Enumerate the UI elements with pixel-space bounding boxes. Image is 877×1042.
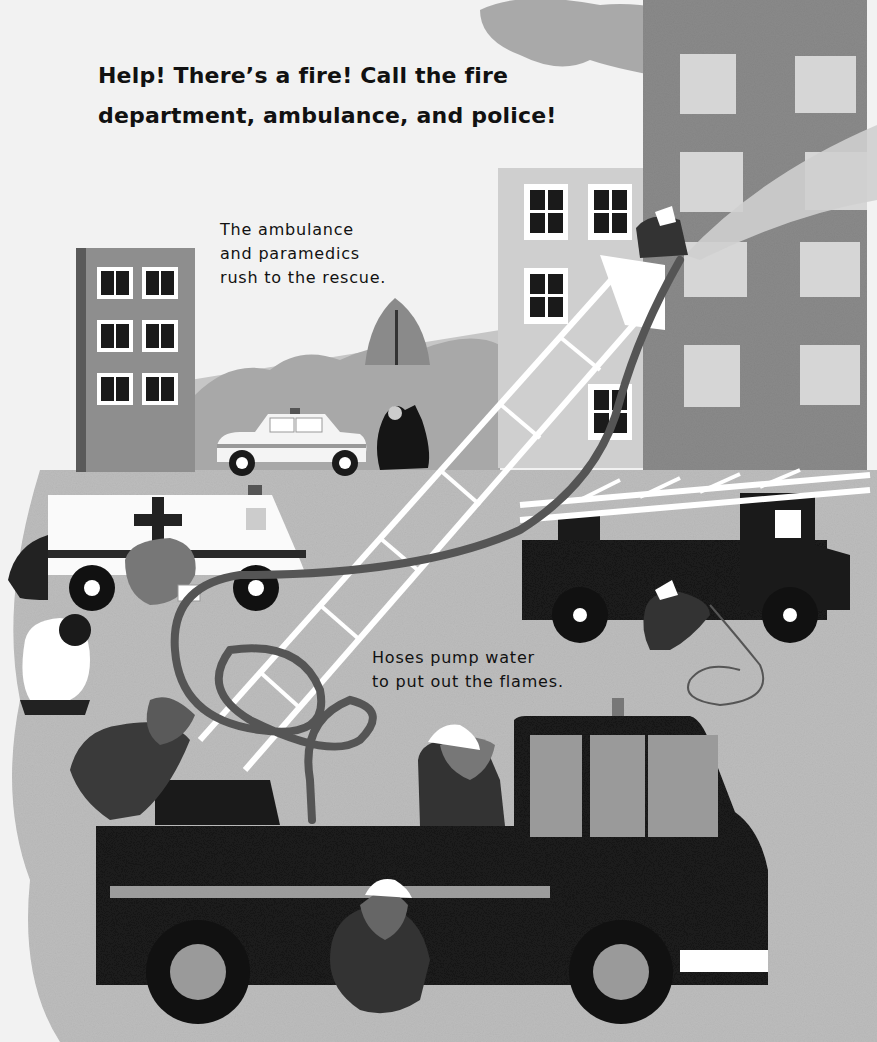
ambulance-caption: The ambulance and paramedics rush to the… bbox=[220, 218, 420, 290]
ambulance-caption-line-3: rush to the rescue. bbox=[220, 266, 420, 290]
hoses-caption: Hoses pump water to put out the flames. bbox=[372, 646, 602, 694]
headline-line-1: Help! There’s a fire! Call the fire bbox=[98, 56, 618, 96]
ambulance-caption-line-1: The ambulance bbox=[220, 218, 420, 242]
page-headline: Help! There’s a fire! Call the fire depa… bbox=[98, 56, 618, 136]
headline-line-2: department, ambulance, and police! bbox=[98, 96, 618, 136]
illustration-scene bbox=[0, 0, 877, 1042]
hoses-caption-line-1: Hoses pump water bbox=[372, 646, 602, 670]
background-building-left bbox=[76, 248, 195, 472]
hoses-caption-line-2: to put out the flames. bbox=[372, 670, 602, 694]
ambulance-caption-line-2: and paramedics bbox=[220, 242, 420, 266]
